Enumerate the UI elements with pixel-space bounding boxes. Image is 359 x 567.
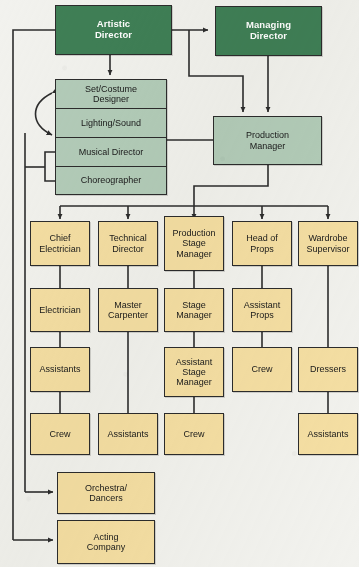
node-head-of-props[interactable]: Head of Props <box>232 221 292 266</box>
lighting-sound-label: Lighting/Sound <box>79 118 143 128</box>
orchestra-dancers-line2: Dancers <box>83 493 129 503</box>
production-stage-manager-line1: Production <box>170 228 217 238</box>
master-carpenter-line1: Master <box>106 300 150 310</box>
assistant-props-line2: Props <box>242 310 283 320</box>
crew-props-label: Crew <box>249 364 274 374</box>
node-crew-stage[interactable]: Crew <box>164 413 224 455</box>
head-of-props-line1: Head of <box>244 233 280 243</box>
choreographer-label: Choreographer <box>79 175 144 185</box>
node-set-costume-designer[interactable]: Set/Costume Designer <box>55 79 167 108</box>
org-chart-canvas: Managing Director (double arrow) --> <box>0 0 359 567</box>
creative-team-stack: Set/Costume Designer Lighting/Sound Musi… <box>55 79 167 195</box>
managing-director-line2: Director <box>244 31 293 42</box>
node-dressers[interactable]: Dressers <box>298 347 358 392</box>
node-assistant-stage-manager[interactable]: Assistant Stage Manager <box>164 347 224 397</box>
node-choreographer[interactable]: Choreographer <box>55 166 167 195</box>
production-manager-line2: Manager <box>244 141 291 151</box>
electrician-label: Electrician <box>37 305 83 315</box>
node-managing-director[interactable]: Managing Director <box>215 6 322 56</box>
assistants-technical-label: Assistants <box>105 429 150 439</box>
node-orchestra-dancers[interactable]: Orchestra/ Dancers <box>57 472 155 514</box>
stage-manager-line1: Stage <box>174 300 214 310</box>
stage-manager-line2: Manager <box>174 310 214 320</box>
set-costume-designer-line1: Set/Costume <box>83 84 139 94</box>
assistant-stage-manager-line3: Manager <box>174 377 215 387</box>
musical-director-label: Musical Director <box>77 147 146 157</box>
node-stage-manager[interactable]: Stage Manager <box>164 288 224 332</box>
node-assistant-props[interactable]: Assistant Props <box>232 288 292 332</box>
wardrobe-supervisor-line2: Supervisor <box>304 244 351 254</box>
node-crew-props[interactable]: Crew <box>232 347 292 392</box>
assistants-electrics-label: Assistants <box>37 364 82 374</box>
dressers-label: Dressers <box>308 364 348 374</box>
node-lighting-sound[interactable]: Lighting/Sound <box>55 108 167 137</box>
production-manager-line1: Production <box>244 130 291 140</box>
chief-electrician-line2: Electrician <box>37 244 83 254</box>
assistant-props-line1: Assistant <box>242 300 283 310</box>
master-carpenter-line2: Carpenter <box>106 310 150 320</box>
chief-electrician-line1: Chief <box>37 233 83 243</box>
acting-company-line1: Acting <box>85 532 128 542</box>
node-musical-director[interactable]: Musical Director <box>55 137 167 166</box>
node-technical-director[interactable]: Technical Director <box>98 221 158 266</box>
assistant-stage-manager-line2: Stage <box>174 367 215 377</box>
node-electrician[interactable]: Electrician <box>30 288 90 332</box>
connector-lines: Managing Director (double arrow) --> <box>0 0 359 567</box>
set-costume-designer-line2: Designer <box>83 94 139 104</box>
production-stage-manager-line3: Manager <box>170 249 217 259</box>
crew-electrics-label: Crew <box>47 429 72 439</box>
node-chief-electrician[interactable]: Chief Electrician <box>30 221 90 266</box>
artistic-director-line2: Director <box>93 30 134 41</box>
node-production-manager[interactable]: Production Manager <box>213 116 322 165</box>
technical-director-line2: Director <box>107 244 149 254</box>
node-crew-electrics[interactable]: Crew <box>30 413 90 455</box>
node-wardrobe-supervisor[interactable]: Wardrobe Supervisor <box>298 221 358 266</box>
acting-company-line2: Company <box>85 542 128 552</box>
node-production-stage-manager[interactable]: Production Stage Manager <box>164 216 224 271</box>
orchestra-dancers-line1: Orchestra/ <box>83 483 129 493</box>
assistant-stage-manager-line1: Assistant <box>174 357 215 367</box>
head-of-props-line2: Props <box>244 244 280 254</box>
node-assistants-electrics[interactable]: Assistants <box>30 347 90 392</box>
node-acting-company[interactable]: Acting Company <box>57 520 155 564</box>
node-artistic-director[interactable]: Artistic Director <box>55 5 172 55</box>
production-stage-manager-line2: Stage <box>170 238 217 248</box>
crew-stage-label: Crew <box>181 429 206 439</box>
technical-director-line1: Technical <box>107 233 149 243</box>
node-assistants-wardrobe[interactable]: Assistants <box>298 413 358 455</box>
node-master-carpenter[interactable]: Master Carpenter <box>98 288 158 332</box>
node-assistants-technical[interactable]: Assistants <box>98 413 158 455</box>
assistants-wardrobe-label: Assistants <box>305 429 350 439</box>
wardrobe-supervisor-line1: Wardrobe <box>304 233 351 243</box>
